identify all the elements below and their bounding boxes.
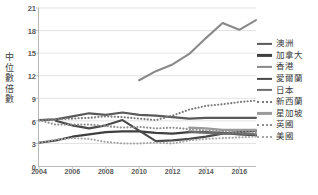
plot-svg <box>39 8 256 166</box>
x-axis-tick-label: 2010 <box>124 168 154 175</box>
legend: 澳洲加拿大香港愛爾蘭日本新西蘭星加坡英國美國 <box>257 38 317 142</box>
legend-line-swatch-icon <box>257 51 272 60</box>
y-axis-tick-label: 21 <box>16 4 36 13</box>
legend-item-label: 英國 <box>276 120 294 129</box>
legend-line-swatch-icon <box>257 74 272 83</box>
legend-item-1[interactable]: 加拿大 <box>257 50 317 62</box>
x-axis-tick-label: 2006 <box>57 168 87 175</box>
legend-item-4[interactable]: 日本 <box>257 84 317 96</box>
legend-item-label: 香港 <box>276 62 294 71</box>
legend-item-0[interactable]: 澳洲 <box>257 38 317 50</box>
y-axis-tick-label: 9 <box>16 94 36 103</box>
legend-line-swatch-icon <box>257 120 272 129</box>
legend-item-6[interactable]: 星加坡 <box>257 108 317 120</box>
y-axis-tick-label: 6 <box>16 117 36 126</box>
legend-line-swatch-icon <box>257 97 272 106</box>
series-line <box>39 137 256 144</box>
legend-item-label: 澳洲 <box>276 39 294 48</box>
legend-line-swatch-icon <box>257 86 272 95</box>
plot-area: 2004200620082010201220142016 <box>38 8 256 167</box>
legend-line-swatch-icon <box>257 39 272 48</box>
x-axis-tick-labels: 2004200620082010201220142016 <box>39 166 256 186</box>
x-axis-tick-label: 2016 <box>224 168 254 175</box>
y-axis-tick-label: 15 <box>16 49 36 58</box>
legend-item-label: 新西蘭 <box>276 97 303 106</box>
y-axis-tick-label: 18 <box>16 26 36 35</box>
legend-line-swatch-icon <box>257 62 272 71</box>
legend-item-5[interactable]: 新西蘭 <box>257 96 317 108</box>
legend-line-swatch-icon <box>257 109 272 118</box>
x-axis-tick-label: 2012 <box>158 168 188 175</box>
line-chart: 中位數倍數 036912151821 200420062008201020122… <box>0 0 318 195</box>
legend-line-swatch-icon <box>257 132 272 141</box>
legend-item-label: 日本 <box>276 86 294 95</box>
x-axis-tick-label: 2008 <box>91 168 121 175</box>
x-axis-tick-label: 2004 <box>24 168 54 175</box>
legend-item-2[interactable]: 香港 <box>257 61 317 73</box>
legend-item-label: 美國 <box>276 132 294 141</box>
y-axis-tick-label: 12 <box>16 72 36 81</box>
y-axis-tick-labels: 036912151821 <box>14 0 36 195</box>
y-axis-tick-label: 3 <box>16 140 36 149</box>
legend-item-label: 加拿大 <box>276 51 303 60</box>
legend-item-8[interactable]: 美國 <box>257 131 317 143</box>
legend-item-3[interactable]: 愛爾蘭 <box>257 73 317 85</box>
x-axis-tick-label: 2014 <box>191 168 221 175</box>
legend-item-label: 愛爾蘭 <box>276 74 303 83</box>
legend-item-label: 星加坡 <box>276 109 303 118</box>
series-line <box>139 20 256 80</box>
legend-item-7[interactable]: 英國 <box>257 119 317 131</box>
